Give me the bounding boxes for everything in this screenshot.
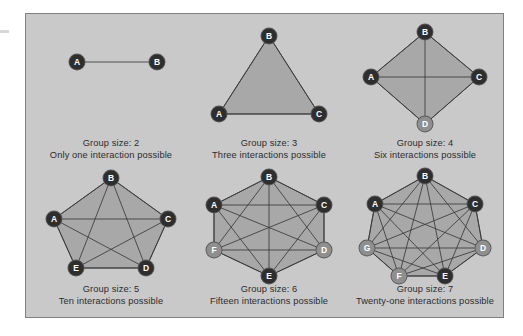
node-A: A bbox=[367, 196, 384, 213]
node-F: F bbox=[391, 268, 408, 285]
caption-interactions: Only one interaction possible bbox=[32, 150, 190, 162]
node-D: D bbox=[316, 242, 333, 259]
node-D: D bbox=[138, 260, 155, 277]
node-letter: D bbox=[422, 119, 428, 129]
panel-group-4: BCDAGroup size: 4Six interactions possib… bbox=[346, 20, 504, 161]
node-letter: B bbox=[422, 171, 428, 181]
node-letter: E bbox=[442, 271, 448, 281]
node-letter: B bbox=[154, 57, 160, 67]
node-letter: A bbox=[372, 199, 378, 209]
node-B: B bbox=[261, 169, 278, 186]
panel-group-5: BCDEAGroup size: 5Ten interactions possi… bbox=[32, 166, 190, 307]
polygon-hull bbox=[54, 178, 168, 268]
node-B: B bbox=[417, 168, 434, 185]
node-letter: A bbox=[74, 57, 80, 67]
node-letter: A bbox=[51, 214, 57, 224]
graph-group-5: BCDEA bbox=[32, 166, 190, 284]
node-letter: A bbox=[211, 200, 217, 210]
graph-group-4: BCDA bbox=[346, 20, 504, 138]
node-E: E bbox=[437, 268, 454, 285]
node-C: C bbox=[316, 197, 333, 214]
caption-interactions: Six interactions possible bbox=[346, 150, 504, 162]
graph-group-7: BCDEFGA bbox=[346, 166, 504, 284]
node-letter: A bbox=[368, 72, 374, 82]
node-letter: B bbox=[266, 31, 272, 41]
node-letter: G bbox=[364, 243, 371, 253]
node-B: B bbox=[261, 28, 278, 45]
node-letter: F bbox=[396, 271, 401, 281]
node-letter: C bbox=[476, 72, 482, 82]
caption-interactions: Twenty-one interactions possible bbox=[346, 296, 504, 308]
node-A: A bbox=[211, 106, 228, 123]
node-letter: B bbox=[108, 173, 114, 183]
node-letter: A bbox=[216, 109, 222, 119]
node-B: B bbox=[149, 54, 166, 71]
node-letter: D bbox=[480, 243, 486, 253]
panel-group-7: BCDEFGAGroup size: 7Twenty-one interacti… bbox=[346, 166, 504, 307]
node-B: B bbox=[417, 24, 434, 41]
node-B: B bbox=[103, 170, 120, 187]
node-A: A bbox=[46, 211, 63, 228]
node-letter: E bbox=[266, 271, 272, 281]
panel-group-6: BCDEFAGroup size: 6Fifteen interactions … bbox=[190, 166, 348, 307]
node-C: C bbox=[160, 211, 177, 228]
graph-group-3: BAC bbox=[190, 20, 348, 138]
node-letter: C bbox=[165, 214, 171, 224]
node-A: A bbox=[69, 54, 86, 71]
figure-frame: ABGroup size: 2Only one interaction poss… bbox=[25, 13, 504, 318]
node-F: F bbox=[206, 242, 223, 259]
polygon-hull bbox=[219, 36, 319, 114]
caption-interactions: Fifteen interactions possible bbox=[190, 296, 348, 308]
node-G: G bbox=[359, 240, 376, 257]
node-letter: C bbox=[316, 109, 322, 119]
caption-interactions: Three interactions possible bbox=[190, 150, 348, 162]
node-letter: C bbox=[321, 200, 327, 210]
node-letter: F bbox=[211, 245, 216, 255]
node-C: C bbox=[471, 69, 488, 86]
caption-interactions: Ten interactions possible bbox=[32, 296, 190, 308]
node-C: C bbox=[467, 196, 484, 213]
node-E: E bbox=[68, 260, 85, 277]
node-D: D bbox=[417, 116, 434, 133]
node-D: D bbox=[475, 240, 492, 257]
panel-group-3: BACGroup size: 3Three interactions possi… bbox=[190, 20, 348, 161]
node-C: C bbox=[311, 106, 328, 123]
node-letter: D bbox=[143, 263, 149, 273]
graph-group-2: AB bbox=[32, 20, 190, 138]
edge-tick-mark bbox=[0, 30, 9, 33]
node-E: E bbox=[261, 268, 278, 285]
node-letter: B bbox=[422, 27, 428, 37]
panel-group-2: ABGroup size: 2Only one interaction poss… bbox=[32, 20, 190, 161]
node-A: A bbox=[363, 69, 380, 86]
node-letter: C bbox=[472, 199, 478, 209]
graph-group-6: BCDEFA bbox=[190, 166, 348, 284]
node-letter: B bbox=[266, 172, 272, 182]
node-A: A bbox=[206, 197, 223, 214]
node-letter: E bbox=[73, 263, 79, 273]
node-letter: D bbox=[321, 245, 327, 255]
